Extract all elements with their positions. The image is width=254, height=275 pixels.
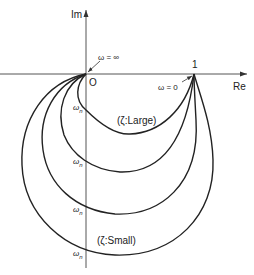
omega-infinity-label: ω = ∞ bbox=[98, 54, 119, 62]
origin-label: O bbox=[89, 78, 97, 88]
omega-n-label-4: ωn bbox=[73, 250, 83, 260]
omega-infinity-pointer bbox=[88, 61, 100, 72]
zeta-large-label: (ζ:Large) bbox=[117, 116, 156, 126]
omega-zero-pointer bbox=[182, 76, 192, 82]
curve-zeta-smallest bbox=[22, 74, 213, 255]
real-axis-label: Re bbox=[233, 82, 246, 92]
unit-point-label: 1 bbox=[192, 60, 198, 70]
imag-axis-label: Im bbox=[71, 10, 82, 20]
omega-n-label-3: ωn bbox=[73, 206, 83, 216]
nyquist-diagram bbox=[0, 0, 254, 275]
omega-zero-label: ω = 0 bbox=[158, 84, 178, 92]
zeta-small-label: (ζ:Small) bbox=[97, 236, 136, 246]
omega-n-label-2: ωn bbox=[73, 158, 83, 168]
omega-n-label-1: ωn bbox=[73, 104, 83, 114]
